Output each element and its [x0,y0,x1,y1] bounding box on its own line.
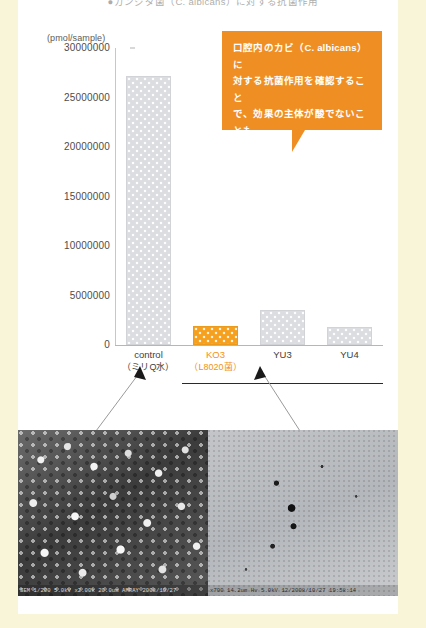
callout-box: 口腔内のカビ（C. albicans）に 対する抗菌作用を確認すること で、効果… [222,31,382,130]
sem-photo-pair: SEM 1/200 5.0kV x2.00k 20.0um AMRAY 2008… [18,430,398,596]
sem-photo-control: SEM 1/200 5.0kV x2.00k 20.0um AMRAY 2008… [18,430,208,596]
y-axis-tick-label: 0 [24,339,110,350]
sem-photo-ko3-caption-bar: x700 14.2um Hv 5.0kV 12/2008/10/27 19:58… [208,585,398,596]
bar-ko3 [193,326,238,345]
bar-slot [115,48,182,345]
page-root: ●カンジダ菌（C. albicans）に対する抗菌作用 (pmol/sample… [0,0,426,628]
callout-tail [292,130,312,152]
bar-control [126,76,171,345]
bar-yu3 [260,310,305,345]
y-axis-tick-label: 25000000 [24,92,110,103]
bar-yu4 [327,327,372,345]
sem-photo-control-caption-bar: SEM 1/200 5.0kV x2.00k 20.0um AMRAY 2008… [18,585,208,596]
y-axis-tick-label: 10000000 [24,240,110,251]
sem-photo-control-caption: SEM 1/200 5.0kV x2.00k 20.0um AMRAY 2008… [18,585,208,596]
y-axis-tick-label: 5000000 [24,290,110,301]
callout-line-2: 対する抗菌作用を確認すること [233,73,372,106]
sem-photo-ko3-caption: x700 14.2um Hv 5.0kV 12/2008/10/27 19:58… [208,585,398,596]
y-axis-tick-label: 30000000 [24,42,110,53]
x-axis-line [115,345,383,346]
callout-line-1: 口腔内のカビ（C. albicans）に [233,40,372,73]
y-axis-tick-label: 15000000 [24,191,110,202]
sem-photo-ko3: x700 14.2um Hv 5.0kV 12/2008/10/27 19:58… [208,430,398,596]
leader-arrows [0,355,426,435]
bar-chart: (pmol/sample) 30000000250000002000000015… [0,0,426,420]
y-axis-tick-label: 20000000 [24,141,110,152]
